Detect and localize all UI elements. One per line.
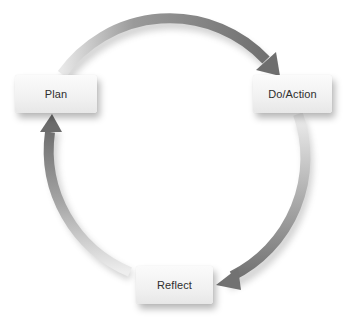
node-plan: Plan [15,75,97,113]
arrow-reflect-to-plan [40,114,130,272]
node-do-action: Do/Action [253,75,332,113]
cycle-diagram: Plan Do/Action Reflect [0,0,355,329]
node-plan-label: Plan [45,88,67,100]
node-do-action-label: Do/Action [268,88,317,100]
node-reflect: Reflect [136,266,213,304]
node-reflect-label: Reflect [157,279,192,291]
